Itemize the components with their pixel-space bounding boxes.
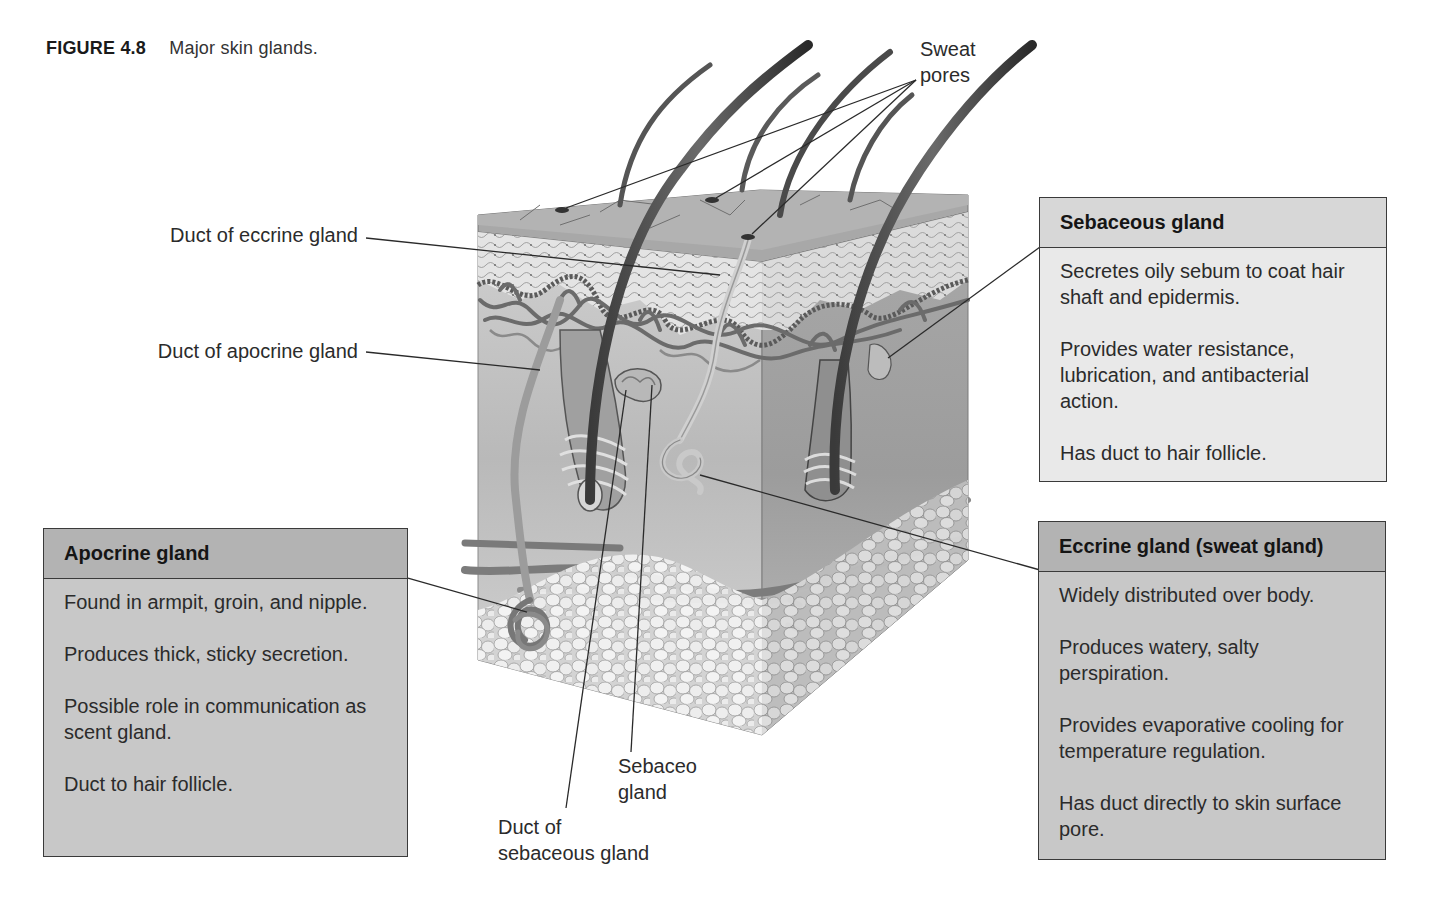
eccrine-point-1: Widely distributed over body. [1059, 582, 1365, 608]
eccrine-gland-box-body: Widely distributed over body. Produces w… [1039, 572, 1385, 842]
label-duct-sebaceous-line2: sebaceous gland [498, 840, 649, 866]
figure-title: Major skin glands. [169, 38, 318, 58]
label-sebaceous-gland: Sebaceo gland [618, 753, 697, 805]
label-sweat-pores: Sweat pores [920, 36, 976, 88]
apocrine-gland-box-title: Apocrine gland [44, 529, 407, 579]
apocrine-gland-box-body: Found in armpit, groin, and nipple. Prod… [44, 579, 407, 797]
label-sweat-pores-line2: pores [920, 62, 976, 88]
sebaceous-gland-box-body: Secretes oily sebum to coat hair shaft a… [1040, 248, 1386, 466]
sebaceous-point-2: Provides water resistance, lubrication, … [1060, 336, 1366, 414]
apocrine-point-1: Found in armpit, groin, and nipple. [64, 589, 387, 615]
figure-number: FIGURE 4.8 [46, 38, 146, 58]
label-duct-apocrine: Duct of apocrine gland [158, 338, 358, 364]
label-duct-sebaceous-line1: Duct of [498, 814, 649, 840]
label-sweat-pores-line1: Sweat [920, 36, 976, 62]
eccrine-point-3: Provides evaporative cooling for tempera… [1059, 712, 1365, 764]
label-sebaceous-gland-line1: Sebaceo [618, 753, 697, 779]
eccrine-point-2: Produces watery, salty perspiration. [1059, 634, 1365, 686]
sebaceous-point-1: Secretes oily sebum to coat hair shaft a… [1060, 258, 1366, 310]
eccrine-gland-box-title: Eccrine gland (sweat gland) [1039, 522, 1385, 572]
sebaceous-gland-box: Sebaceous gland Secretes oily sebum to c… [1039, 197, 1387, 482]
figure-caption: FIGURE 4.8 Major skin glands. [46, 38, 318, 59]
apocrine-point-3: Possible role in communication as scent … [64, 693, 387, 745]
eccrine-point-4: Has duct directly to skin surface pore. [1059, 790, 1365, 842]
sebaceous-gland-box-title: Sebaceous gland [1040, 198, 1386, 248]
apocrine-point-2: Produces thick, sticky secretion. [64, 641, 387, 667]
label-duct-sebaceous: Duct of sebaceous gland [498, 814, 649, 866]
apocrine-gland-box: Apocrine gland Found in armpit, groin, a… [43, 528, 408, 857]
label-sebaceous-gland-line2: gland [618, 779, 697, 805]
eccrine-gland-box: Eccrine gland (sweat gland) Widely distr… [1038, 521, 1386, 860]
apocrine-point-4: Duct to hair follicle. [64, 771, 387, 797]
sebaceous-point-3: Has duct to hair follicle. [1060, 440, 1366, 466]
label-duct-eccrine: Duct of eccrine gland [170, 222, 358, 248]
